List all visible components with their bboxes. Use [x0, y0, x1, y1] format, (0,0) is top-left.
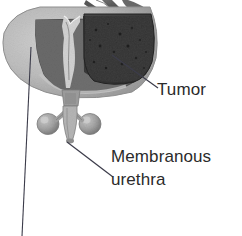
- prostate-illustration: [0, 0, 242, 236]
- label-membranous-urethra: Membranous urethra: [111, 145, 211, 191]
- label-tumor: Tumor: [157, 78, 206, 101]
- leader-line-membranous-urethra: [67, 142, 113, 177]
- label-membranous-line2: urethra: [111, 168, 211, 191]
- prostate-apex-stalk: [62, 90, 80, 106]
- label-tumor-text: Tumor: [157, 80, 206, 99]
- label-membranous-line1: Membranous: [111, 145, 211, 168]
- anatomy-figure: Tumor Membranous urethra: [0, 0, 242, 236]
- membranous-urethra: [63, 106, 77, 143]
